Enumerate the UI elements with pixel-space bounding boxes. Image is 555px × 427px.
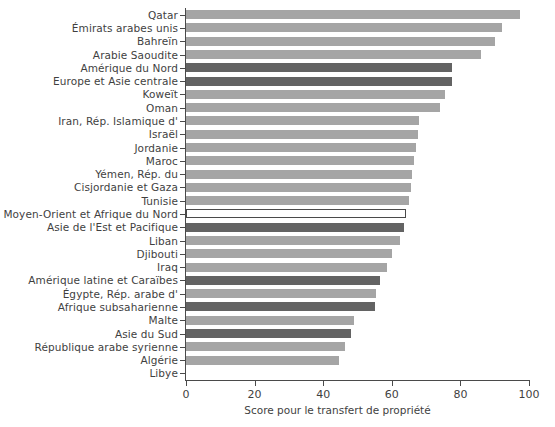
category-label: Amérique du Nord bbox=[0, 62, 178, 74]
y-axis-tick bbox=[180, 334, 185, 335]
x-axis-tick bbox=[323, 381, 324, 386]
y-axis-tick bbox=[180, 307, 185, 308]
category-label: Djibouti bbox=[0, 248, 178, 260]
bar bbox=[186, 90, 445, 99]
y-axis-tick bbox=[180, 320, 185, 321]
category-label: Liban bbox=[0, 235, 178, 247]
y-axis-tick bbox=[180, 134, 185, 135]
x-axis-tick-label: 0 bbox=[183, 388, 190, 401]
category-label: Algérie bbox=[0, 354, 178, 366]
bar bbox=[186, 143, 416, 152]
category-label: Koweït bbox=[0, 88, 178, 100]
y-axis-tick bbox=[180, 121, 185, 122]
category-label: Malte bbox=[0, 314, 178, 326]
bar bbox=[186, 342, 345, 351]
y-axis-tick bbox=[180, 161, 185, 162]
category-label: Qatar bbox=[0, 9, 178, 21]
category-label: Tunisie bbox=[0, 195, 178, 207]
x-axis-tick-label: 40 bbox=[316, 388, 330, 401]
x-axis-tick-label: 60 bbox=[385, 388, 399, 401]
y-axis-tick bbox=[180, 108, 185, 109]
category-axis-labels: QatarÉmirats arabes unisBahreïnArabie Sa… bbox=[0, 8, 178, 380]
category-label: Europe et Asie centrale bbox=[0, 75, 178, 87]
bar bbox=[186, 316, 354, 325]
bar bbox=[186, 37, 495, 46]
x-axis-tick bbox=[186, 381, 187, 386]
y-axis-tick bbox=[180, 94, 185, 95]
y-axis-tick bbox=[180, 148, 185, 149]
category-label: Yémen, Rép. du bbox=[0, 168, 178, 180]
bar bbox=[186, 63, 452, 72]
y-axis-line bbox=[185, 8, 186, 381]
x-axis-tick bbox=[460, 381, 461, 386]
x-axis-tick bbox=[255, 381, 256, 386]
y-axis-tick bbox=[180, 41, 185, 42]
y-axis-tick bbox=[180, 267, 185, 268]
x-axis-tick bbox=[392, 381, 393, 386]
category-label: Égypte, Rép. arabe d' bbox=[0, 288, 178, 300]
x-axis-tick bbox=[529, 381, 530, 386]
category-label: Arabie Saoudite bbox=[0, 49, 178, 61]
bar-chart: QatarÉmirats arabes unisBahreïnArabie Sa… bbox=[0, 0, 555, 427]
y-axis-tick bbox=[180, 227, 185, 228]
bar bbox=[186, 156, 414, 165]
y-axis-tick bbox=[180, 280, 185, 281]
category-label: Iraq bbox=[0, 261, 178, 273]
category-label: Iran, Rép. Islamique d' bbox=[0, 115, 178, 127]
category-label: Émirats arabes unis bbox=[0, 22, 178, 34]
category-label: Bahreïn bbox=[0, 35, 178, 47]
bar bbox=[186, 77, 452, 86]
category-label: Jordanie bbox=[0, 142, 178, 154]
bar bbox=[186, 130, 418, 139]
y-axis-tick bbox=[180, 294, 185, 295]
bar bbox=[186, 236, 400, 245]
y-axis-tick bbox=[180, 254, 185, 255]
x-axis-line bbox=[185, 380, 530, 381]
y-axis-tick bbox=[180, 347, 185, 348]
category-label: Cisjordanie et Gaza bbox=[0, 181, 178, 193]
bar bbox=[186, 23, 502, 32]
bar bbox=[186, 50, 481, 59]
bar bbox=[186, 223, 404, 232]
bar bbox=[186, 263, 387, 272]
category-label: Afrique subsaharienne bbox=[0, 301, 178, 313]
y-axis-tick bbox=[180, 360, 185, 361]
bar bbox=[186, 289, 376, 298]
category-label: Asie du Sud bbox=[0, 328, 178, 340]
category-label: République arabe syrienne bbox=[0, 341, 178, 353]
y-axis-tick bbox=[180, 187, 185, 188]
bar bbox=[186, 196, 409, 205]
bar bbox=[186, 183, 411, 192]
category-label: Maroc bbox=[0, 155, 178, 167]
bar bbox=[186, 116, 419, 125]
gridline bbox=[460, 8, 461, 380]
y-axis-tick bbox=[180, 201, 185, 202]
bar bbox=[186, 103, 440, 112]
y-axis-tick bbox=[180, 68, 185, 69]
x-axis-title-text: Score pour le transfert de propriété bbox=[124, 404, 430, 416]
y-axis-tick bbox=[180, 174, 185, 175]
y-axis-tick bbox=[180, 81, 185, 82]
x-axis-tick-label: 20 bbox=[248, 388, 262, 401]
bar bbox=[186, 10, 520, 19]
gridline bbox=[529, 8, 530, 380]
category-label: Amérique latine et Caraïbes bbox=[0, 274, 178, 286]
x-axis-tick-label: 80 bbox=[453, 388, 467, 401]
bar bbox=[186, 276, 380, 285]
y-axis-tick bbox=[180, 15, 185, 16]
category-label: Oman bbox=[0, 102, 178, 114]
category-label: Israël bbox=[0, 128, 178, 140]
bar bbox=[186, 302, 375, 311]
plot-area bbox=[186, 8, 529, 380]
bar bbox=[186, 329, 351, 338]
y-axis-tick bbox=[180, 28, 185, 29]
y-axis-tick bbox=[180, 55, 185, 56]
category-label: Moyen-Orient et Afrique du Nord bbox=[0, 208, 178, 220]
bar bbox=[186, 249, 392, 258]
category-label: Libye bbox=[0, 367, 178, 379]
bar bbox=[186, 356, 339, 365]
category-label: Asie de l'Est et Pacifique bbox=[0, 221, 178, 233]
y-axis-tick bbox=[180, 214, 185, 215]
y-axis-tick bbox=[180, 241, 185, 242]
y-axis-tick bbox=[180, 373, 185, 374]
